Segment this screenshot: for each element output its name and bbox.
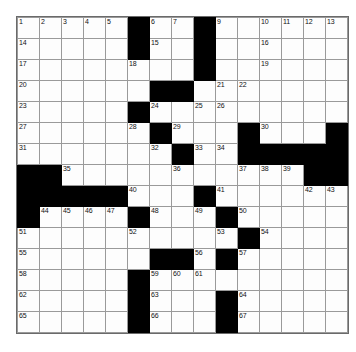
- crossword-cell[interactable]: [172, 291, 194, 312]
- crossword-cell[interactable]: 33: [194, 144, 216, 165]
- crossword-cell[interactable]: 32: [150, 144, 172, 165]
- crossword-cell[interactable]: 46: [84, 207, 106, 228]
- crossword-cell[interactable]: [282, 270, 304, 291]
- crossword-cell[interactable]: [150, 228, 172, 249]
- crossword-cell[interactable]: [62, 102, 84, 123]
- crossword-cell[interactable]: 35: [62, 165, 84, 186]
- crossword-cell[interactable]: [150, 165, 172, 186]
- crossword-cell[interactable]: [106, 123, 128, 144]
- crossword-cell[interactable]: [106, 60, 128, 81]
- crossword-cell[interactable]: [40, 39, 62, 60]
- crossword-cell[interactable]: 5: [106, 18, 128, 39]
- crossword-cell[interactable]: [194, 291, 216, 312]
- crossword-cell[interactable]: [84, 144, 106, 165]
- crossword-cell[interactable]: [238, 18, 260, 39]
- crossword-cell[interactable]: 66: [150, 312, 172, 333]
- crossword-cell[interactable]: [84, 81, 106, 102]
- crossword-cell[interactable]: [62, 291, 84, 312]
- crossword-cell[interactable]: 15: [150, 39, 172, 60]
- crossword-cell[interactable]: [84, 39, 106, 60]
- crossword-cell[interactable]: [40, 249, 62, 270]
- crossword-cell[interactable]: [62, 123, 84, 144]
- crossword-cell[interactable]: 44: [40, 207, 62, 228]
- crossword-cell[interactable]: [282, 249, 304, 270]
- crossword-cell[interactable]: 58: [18, 270, 40, 291]
- crossword-cell[interactable]: 16: [260, 39, 282, 60]
- crossword-cell[interactable]: [84, 102, 106, 123]
- crossword-cell[interactable]: 21: [216, 81, 238, 102]
- crossword-cell[interactable]: [238, 186, 260, 207]
- crossword-cell[interactable]: [106, 291, 128, 312]
- crossword-cell[interactable]: 42: [304, 186, 326, 207]
- crossword-cell[interactable]: [304, 102, 326, 123]
- crossword-cell[interactable]: [282, 207, 304, 228]
- crossword-cell[interactable]: [326, 102, 348, 123]
- crossword-cell[interactable]: [172, 312, 194, 333]
- crossword-cell[interactable]: [128, 249, 150, 270]
- crossword-cell[interactable]: [150, 60, 172, 81]
- crossword-cell[interactable]: [106, 165, 128, 186]
- crossword-cell[interactable]: [282, 312, 304, 333]
- crossword-cell[interactable]: [84, 270, 106, 291]
- crossword-cell[interactable]: [216, 39, 238, 60]
- crossword-cell[interactable]: [40, 81, 62, 102]
- crossword-cell[interactable]: [326, 291, 348, 312]
- crossword-cell[interactable]: [194, 228, 216, 249]
- crossword-cell[interactable]: 45: [62, 207, 84, 228]
- crossword-cell[interactable]: 37: [238, 165, 260, 186]
- crossword-cell[interactable]: 39: [282, 165, 304, 186]
- crossword-cell[interactable]: [106, 102, 128, 123]
- crossword-cell[interactable]: [62, 81, 84, 102]
- crossword-cell[interactable]: 14: [18, 39, 40, 60]
- crossword-cell[interactable]: 18: [128, 60, 150, 81]
- crossword-cell[interactable]: 4: [84, 18, 106, 39]
- crossword-cell[interactable]: [304, 207, 326, 228]
- crossword-cell[interactable]: [194, 123, 216, 144]
- crossword-cell[interactable]: [84, 60, 106, 81]
- crossword-cell[interactable]: 1: [18, 18, 40, 39]
- crossword-cell[interactable]: 64: [238, 291, 260, 312]
- crossword-cell[interactable]: [304, 312, 326, 333]
- crossword-cell[interactable]: 50: [238, 207, 260, 228]
- crossword-cell[interactable]: 43: [326, 186, 348, 207]
- crossword-cell[interactable]: [282, 81, 304, 102]
- crossword-cell[interactable]: [194, 165, 216, 186]
- crossword-cell[interactable]: 55: [18, 249, 40, 270]
- crossword-cell[interactable]: [238, 102, 260, 123]
- crossword-cell[interactable]: [260, 186, 282, 207]
- crossword-cell[interactable]: [326, 249, 348, 270]
- crossword-cell[interactable]: 29: [172, 123, 194, 144]
- crossword-cell[interactable]: [106, 144, 128, 165]
- crossword-cell[interactable]: [326, 39, 348, 60]
- crossword-cell[interactable]: 25: [194, 102, 216, 123]
- crossword-cell[interactable]: [326, 312, 348, 333]
- crossword-cell[interactable]: [62, 249, 84, 270]
- crossword-cell[interactable]: [62, 228, 84, 249]
- crossword-cell[interactable]: 20: [18, 81, 40, 102]
- crossword-cell[interactable]: [106, 270, 128, 291]
- crossword-cell[interactable]: [106, 81, 128, 102]
- crossword-cell[interactable]: [216, 123, 238, 144]
- crossword-cell[interactable]: 3: [62, 18, 84, 39]
- crossword-cell[interactable]: [326, 228, 348, 249]
- crossword-cell[interactable]: 24: [150, 102, 172, 123]
- crossword-cell[interactable]: [260, 270, 282, 291]
- crossword-cell[interactable]: [194, 312, 216, 333]
- crossword-cell[interactable]: [260, 249, 282, 270]
- crossword-cell[interactable]: [106, 312, 128, 333]
- crossword-cell[interactable]: 56: [194, 249, 216, 270]
- crossword-cell[interactable]: 38: [260, 165, 282, 186]
- crossword-cell[interactable]: 40: [128, 186, 150, 207]
- crossword-cell[interactable]: [40, 123, 62, 144]
- crossword-cell[interactable]: [304, 39, 326, 60]
- crossword-cell[interactable]: [40, 291, 62, 312]
- crossword-cell[interactable]: [172, 60, 194, 81]
- crossword-cell[interactable]: [304, 228, 326, 249]
- crossword-cell[interactable]: [40, 228, 62, 249]
- crossword-grid[interactable]: 1234567910111213141516171819202122232425…: [17, 17, 348, 333]
- crossword-cell[interactable]: 6: [150, 18, 172, 39]
- crossword-cell[interactable]: 62: [18, 291, 40, 312]
- crossword-cell[interactable]: [62, 39, 84, 60]
- crossword-cell[interactable]: [40, 60, 62, 81]
- crossword-cell[interactable]: 47: [106, 207, 128, 228]
